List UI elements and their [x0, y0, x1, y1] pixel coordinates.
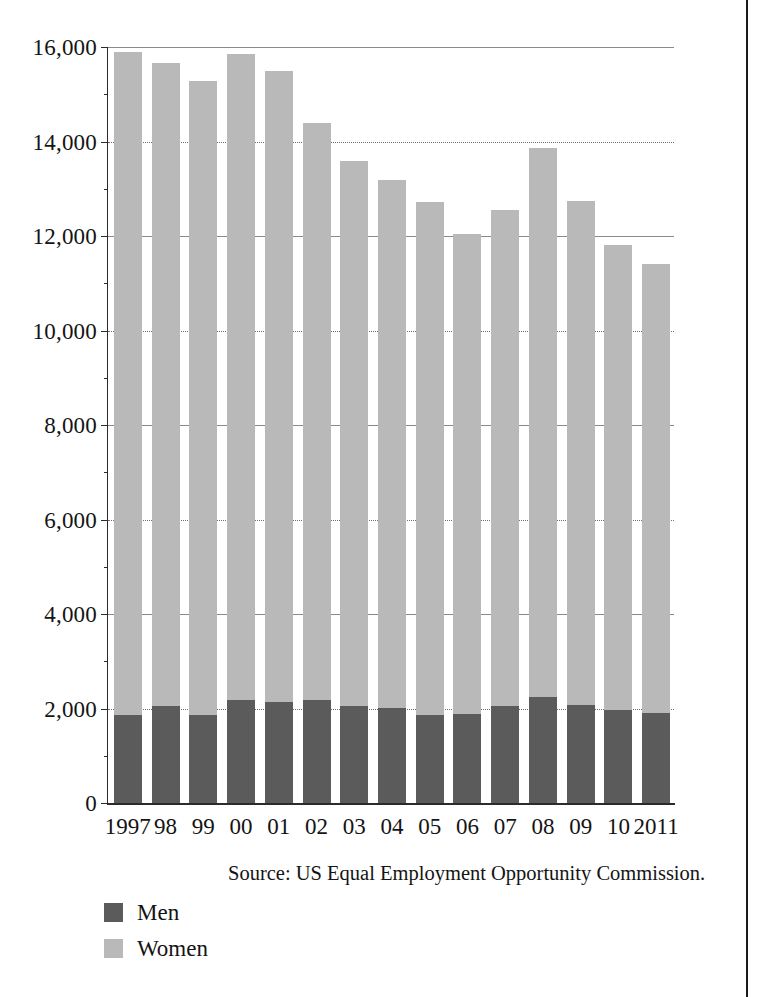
y-axis-label: 14,000 [1, 131, 97, 154]
y-axis-label: 6,000 [1, 509, 97, 532]
y-axis-tick-minor [104, 189, 108, 190]
y-axis-tick-minor [104, 283, 108, 284]
bar-segment-women [152, 63, 180, 706]
bar-column [642, 47, 670, 803]
legend-swatch-women [104, 939, 123, 958]
bar-column [416, 47, 444, 803]
x-axis-labels: 1997989900010203040506070809102011 [108, 812, 674, 844]
bar-segment-men [604, 710, 632, 803]
bar-segment-men [152, 706, 180, 803]
y-axis-tick [101, 709, 108, 710]
bar-segment-men [642, 713, 670, 803]
bar-column [114, 47, 142, 803]
plot-area [108, 47, 674, 803]
page-border-rule [746, 0, 748, 997]
bar-segment-women [303, 123, 331, 700]
bar-column [491, 47, 519, 803]
bar-column [453, 47, 481, 803]
y-axis-tick [101, 520, 108, 521]
legend-label-women: Women [137, 937, 208, 960]
bar-segment-women [189, 81, 217, 715]
bar-segment-women [491, 210, 519, 706]
y-axis-tick-minor [104, 472, 108, 473]
chart-legend: Men Women [104, 894, 208, 966]
chart-figure: 02,0004,0006,0008,00010,00012,00014,0001… [0, 0, 759, 997]
y-axis-label: 0 [1, 792, 97, 815]
bar-segment-women [114, 52, 142, 715]
bar-column [567, 47, 595, 803]
bar-column [189, 47, 217, 803]
bar-segment-men [265, 702, 293, 803]
bar-segment-men [453, 714, 481, 803]
legend-label-men: Men [137, 901, 179, 924]
bar-column [340, 47, 368, 803]
bar-segment-women [453, 234, 481, 714]
y-axis-label: 12,000 [1, 225, 97, 248]
bar-segment-women [378, 180, 406, 708]
y-axis-tick [101, 236, 108, 237]
y-axis-tick-minor [104, 567, 108, 568]
bar-column [265, 47, 293, 803]
y-axis-label: 10,000 [1, 320, 97, 343]
bar-segment-women [642, 264, 670, 713]
bar-segment-men [567, 705, 595, 803]
bar-segment-men [340, 706, 368, 803]
bar-segment-women [529, 148, 557, 698]
y-axis-label: 2,000 [1, 698, 97, 721]
y-axis-tick-minor [104, 94, 108, 95]
bar-column [227, 47, 255, 803]
source-note: Source: US Equal Employment Opportunity … [228, 861, 705, 885]
y-axis-tick-minor [104, 756, 108, 757]
bar-segment-men [189, 715, 217, 803]
y-axis-tick [101, 331, 108, 332]
y-axis-label: 16,000 [1, 36, 97, 59]
legend-swatch-men [104, 903, 123, 922]
bar-column [303, 47, 331, 803]
y-axis-tick [101, 614, 108, 615]
y-axis-tick-minor [104, 378, 108, 379]
bar-column [152, 47, 180, 803]
bar-segment-women [567, 201, 595, 705]
legend-item-women: Women [104, 930, 208, 966]
y-axis-tick [101, 47, 108, 48]
bar-segment-men [491, 706, 519, 803]
bar-column [529, 47, 557, 803]
y-axis-tick-minor [104, 661, 108, 662]
y-axis-tick [101, 425, 108, 426]
y-axis-tick [101, 142, 108, 143]
bar-segment-women [416, 202, 444, 715]
bar-segment-men [114, 715, 142, 803]
bar-segment-men [529, 697, 557, 803]
bar-segment-men [303, 700, 331, 803]
bar-segment-women [227, 54, 255, 700]
bar-segment-men [227, 700, 255, 803]
y-axis-tick [101, 803, 108, 804]
y-axis-label: 8,000 [1, 414, 97, 437]
bar-column [604, 47, 632, 803]
bar-segment-women [604, 245, 632, 710]
bar-column [378, 47, 406, 803]
bar-segment-women [265, 71, 293, 702]
bar-segment-women [340, 161, 368, 706]
bar-segment-men [378, 708, 406, 803]
y-axis-label: 4,000 [1, 603, 97, 626]
legend-item-men: Men [104, 894, 208, 930]
x-axis-line [107, 803, 675, 805]
bar-segment-men [416, 715, 444, 803]
x-axis-label: 2011 [626, 812, 686, 842]
